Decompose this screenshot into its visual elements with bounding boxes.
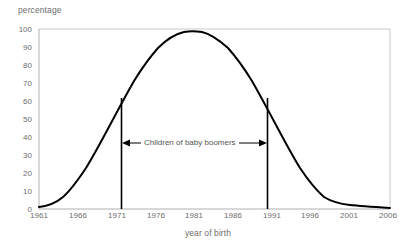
arrowhead-left-icon [122, 140, 130, 147]
plot-frame [39, 29, 390, 209]
plot-area [0, 0, 416, 248]
chart-container: percentage 100 90 80 70 60 50 40 30 20 1… [0, 0, 416, 248]
x-axis-title: year of birth [0, 228, 416, 238]
distribution-curve [39, 31, 390, 208]
arrowhead-right-icon [259, 140, 267, 147]
annotation-children-of-baby-boomers: Children of baby boomers [141, 138, 239, 147]
